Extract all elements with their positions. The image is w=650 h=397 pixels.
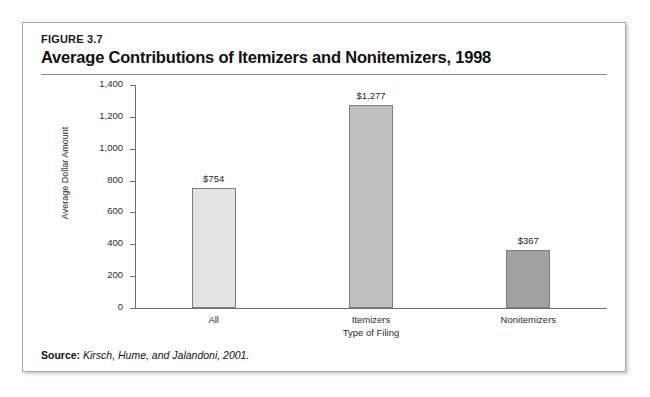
y-axis-tick-mark xyxy=(130,181,135,182)
source-label: Source: xyxy=(41,349,80,361)
y-axis-tick-mark xyxy=(130,85,135,86)
figure-source: Source: Kirsch, Hume, and Jalandoni, 200… xyxy=(23,349,625,361)
bar-value-label: $367 xyxy=(488,235,568,246)
y-axis-tick-mark xyxy=(130,244,135,245)
figure-header: FIGURE 3.7 Average Contributions of Item… xyxy=(23,23,625,68)
bar xyxy=(349,105,393,308)
y-axis-tick-label: 1,000 xyxy=(99,142,123,153)
bar-chart: Average Dollar Amount 02004006008001,000… xyxy=(23,75,627,331)
figure-panel: FIGURE 3.7 Average Contributions of Item… xyxy=(22,22,626,372)
y-axis-tick-mark xyxy=(130,117,135,118)
x-axis-title: Type of Filing xyxy=(135,327,607,338)
y-axis-tick-mark xyxy=(130,149,135,150)
bar xyxy=(506,250,550,308)
x-axis-category-label: All xyxy=(154,314,274,325)
x-axis-category-label: Nonitemizers xyxy=(468,314,588,325)
y-axis-tick-label: 0 xyxy=(118,301,123,312)
bar-value-label: $754 xyxy=(174,173,254,184)
y-axis-title: Average Dollar Amount xyxy=(60,103,70,243)
figure-title: Average Contributions of Itemizers and N… xyxy=(41,47,607,68)
y-axis-line xyxy=(135,85,136,309)
y-axis-tick-label: 800 xyxy=(107,174,123,185)
y-axis-tick-mark xyxy=(130,308,135,309)
x-axis-line xyxy=(135,308,607,309)
bar xyxy=(192,188,236,308)
y-axis-tick-label: 600 xyxy=(107,205,123,216)
y-axis-tick-label: 1,200 xyxy=(99,110,123,121)
bar-value-label: $1,277 xyxy=(331,90,411,101)
y-axis-tick-label: 400 xyxy=(107,237,123,248)
y-axis-tick-label: 1,400 xyxy=(99,78,123,89)
y-axis-tick-label: 200 xyxy=(107,269,123,280)
source-text: Kirsch, Hume, and Jalandoni, 2001. xyxy=(83,349,249,361)
x-axis-category-label: Itemizers xyxy=(311,314,431,325)
y-axis-tick-mark xyxy=(130,212,135,213)
y-axis-tick-mark xyxy=(130,276,135,277)
figure-number: FIGURE 3.7 xyxy=(41,32,607,46)
